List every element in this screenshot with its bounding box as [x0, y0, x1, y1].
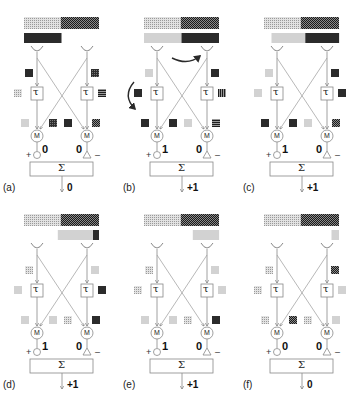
- plus-sign: +: [26, 150, 31, 160]
- delay-symbol-left: τ: [153, 86, 159, 97]
- input-square-left: [145, 69, 153, 77]
- multiplier-symbol-right: M: [84, 132, 90, 139]
- multiplier-input-square: [289, 316, 297, 324]
- stimulus-bar-right: [181, 17, 219, 29]
- multiplier-symbol-right: M: [204, 329, 210, 336]
- left-output-value: 1: [282, 143, 288, 155]
- multiplier-input-square: [289, 119, 297, 127]
- shifted-stimulus-segment: [332, 230, 340, 240]
- output-value: +1: [187, 182, 198, 193]
- delay-square-left: [134, 89, 142, 97]
- delay-symbol-left: τ: [33, 86, 39, 97]
- multiplier-input-square: [332, 316, 340, 324]
- right-output-value: 0: [316, 143, 322, 155]
- sum-symbol: Σ: [298, 359, 305, 370]
- inhibitory-synapse-icon: [83, 348, 91, 355]
- plus-sign: +: [146, 347, 151, 357]
- multiplier-symbol-left: M: [154, 329, 160, 336]
- input-square-right: [91, 69, 99, 77]
- delay-square-right: [98, 286, 106, 294]
- multiplier-input-square: [212, 119, 220, 127]
- panel-label: (a): [3, 182, 15, 193]
- panel-a: ττMM00+–Σ(a)0: [0, 0, 120, 197]
- multiplier-symbol-right: M: [204, 132, 210, 139]
- panel-d: ττMM10+–Σ(d)+1: [0, 197, 120, 394]
- panel-b: ττMM10+–Σ(b)+1: [120, 0, 240, 197]
- multiplier-input-square: [21, 119, 29, 127]
- delay-symbol-left: τ: [153, 283, 159, 294]
- multiplier-input-square: [21, 316, 29, 324]
- receptor-right-icon: [81, 243, 93, 248]
- input-square-left: [265, 266, 273, 274]
- delay-symbol-right: τ: [83, 283, 89, 294]
- delay-symbol-left: τ: [273, 86, 279, 97]
- left-output-value: 1: [162, 340, 168, 352]
- multiplier-symbol-left: M: [274, 329, 280, 336]
- excitatory-synapse-icon: [34, 349, 41, 356]
- receptor-left-icon: [31, 46, 43, 51]
- stimulus-bar-right: [301, 17, 339, 29]
- stimulus-bar-left: [144, 17, 181, 29]
- stimulus-bar-left: [24, 214, 61, 226]
- sum-symbol: Σ: [58, 359, 65, 370]
- multiplier-input-square: [184, 316, 192, 324]
- receptor-left-icon: [271, 243, 283, 248]
- multiplier-input-square: [64, 119, 72, 127]
- shifted-stimulus-segment: [193, 230, 219, 240]
- right-output-value: 0: [76, 340, 82, 352]
- multiplier-input-square: [141, 119, 149, 127]
- right-output-value: 0: [196, 143, 202, 155]
- sum-symbol: Σ: [178, 162, 185, 173]
- delay-square-right: [218, 89, 226, 97]
- shifted-stimulus-segment: [93, 230, 99, 240]
- multiplier-input-square: [49, 119, 57, 127]
- stimulus-bar-left: [264, 214, 301, 226]
- receptor-left-icon: [31, 243, 43, 248]
- receptor-right-icon: [201, 243, 213, 248]
- right-output-value: 0: [76, 143, 82, 155]
- receptor-right-icon: [321, 243, 333, 248]
- plus-sign: +: [146, 150, 151, 160]
- left-output-value: 1: [42, 340, 48, 352]
- delay-square-right: [338, 286, 346, 294]
- delay-symbol-left: τ: [273, 283, 279, 294]
- shifted-stimulus-segment: [182, 33, 220, 43]
- multiplier-symbol-left: M: [34, 329, 40, 336]
- plus-sign: +: [266, 150, 271, 160]
- rotation-arrow-icon: [128, 82, 135, 109]
- input-square-left: [265, 69, 273, 77]
- plus-sign: +: [26, 347, 31, 357]
- delay-square-right: [98, 89, 106, 97]
- multiplier-symbol-left: M: [34, 132, 40, 139]
- minus-sign: –: [95, 347, 100, 357]
- input-square-left: [25, 266, 33, 274]
- inhibitory-synapse-icon: [323, 348, 331, 355]
- right-output-value: 0: [196, 340, 202, 352]
- receptor-left-icon: [151, 243, 163, 248]
- multiplier-input-square: [304, 119, 312, 127]
- delay-square-left: [14, 89, 22, 97]
- input-square-right: [331, 69, 339, 77]
- excitatory-synapse-icon: [34, 152, 41, 159]
- stimulus-bar-right: [61, 17, 99, 29]
- output-value: +1: [307, 182, 318, 193]
- right-output-value: 0: [316, 340, 322, 352]
- multiplier-input-square: [92, 119, 100, 127]
- multiplier-symbol-right: M: [324, 329, 330, 336]
- panel-e: ττMM10+–Σ(e)+1: [120, 197, 240, 394]
- multiplier-input-square: [304, 316, 312, 324]
- input-square-left: [25, 69, 33, 77]
- excitatory-synapse-icon: [274, 152, 281, 159]
- inhibitory-synapse-icon: [83, 151, 91, 158]
- input-square-right: [211, 266, 219, 274]
- multiplier-symbol-left: M: [274, 132, 280, 139]
- panel-label: (d): [3, 379, 15, 390]
- receptor-right-icon: [81, 46, 93, 51]
- output-value: 0: [67, 182, 73, 193]
- delay-symbol-right: τ: [203, 86, 209, 97]
- multiplier-input-square: [64, 316, 72, 324]
- multiplier-input-square: [332, 119, 340, 127]
- multiplier-symbol-right: M: [324, 132, 330, 139]
- output-value: +1: [67, 379, 78, 390]
- delay-square-right: [338, 89, 346, 97]
